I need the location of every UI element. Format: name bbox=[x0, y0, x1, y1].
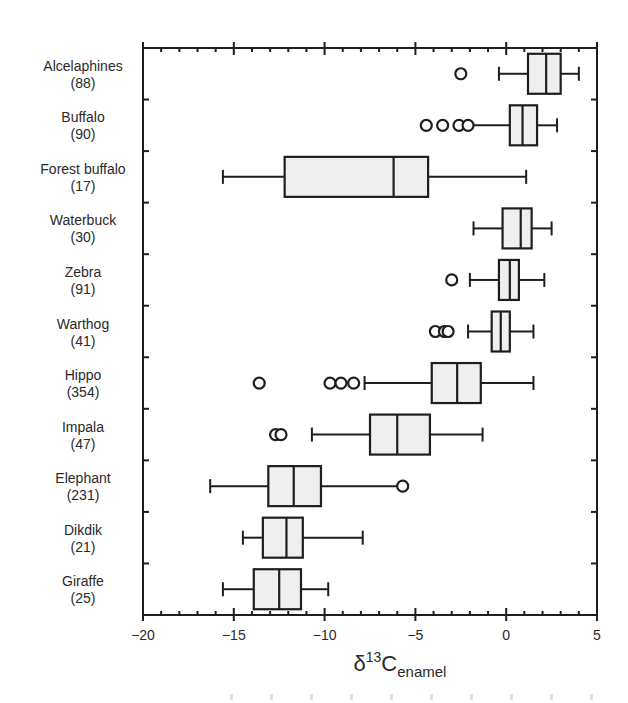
outlier-point bbox=[443, 326, 454, 337]
sample-count-label: (90) bbox=[71, 126, 96, 142]
sample-count-label: (88) bbox=[71, 75, 96, 91]
category-label: Hippo bbox=[65, 367, 102, 383]
sample-count-label: (231) bbox=[67, 487, 100, 503]
x-axis-title: δ13Cenamel bbox=[354, 649, 447, 680]
category-row-zebra: Zebra(91) bbox=[65, 260, 545, 300]
iqr-box bbox=[254, 569, 301, 609]
outlier-point bbox=[325, 378, 336, 389]
category-row-elephant: Elephant(231) bbox=[55, 466, 408, 506]
category-row-alcelaphines: Alcelaphines(88) bbox=[43, 54, 579, 94]
x-tick-label: −20 bbox=[131, 627, 155, 643]
category-row-hippo: Hippo(354) bbox=[65, 363, 534, 403]
iqr-box bbox=[370, 415, 430, 455]
category-label: Buffalo bbox=[61, 109, 105, 125]
x-tick-label: 0 bbox=[502, 627, 510, 643]
category-label: Warthog bbox=[57, 316, 109, 332]
outlier-point bbox=[421, 120, 432, 131]
outlier-point bbox=[437, 120, 448, 131]
x-tick-label: 5 bbox=[593, 627, 601, 643]
category-label: Zebra bbox=[65, 264, 102, 280]
outlier-point bbox=[397, 481, 408, 492]
category-label: Elephant bbox=[55, 470, 110, 486]
sample-count-label: (354) bbox=[67, 384, 100, 400]
category-row-giraffe: Giraffe(25) bbox=[62, 569, 328, 609]
sample-count-label: (25) bbox=[71, 590, 96, 606]
outlier-point bbox=[463, 120, 474, 131]
outlier-point bbox=[276, 429, 287, 440]
boxplot-chart: Alcelaphines(88)Buffalo(90)Forest buffal… bbox=[0, 0, 628, 703]
iqr-box bbox=[263, 518, 303, 558]
cropped-caption-fragment bbox=[230, 694, 610, 700]
sample-count-label: (91) bbox=[71, 281, 96, 297]
sample-count-label: (47) bbox=[71, 436, 96, 452]
x-tick-label: −5 bbox=[407, 627, 423, 643]
category-label: Forest buffalo bbox=[40, 161, 126, 177]
x-tick-label: −15 bbox=[222, 627, 246, 643]
category-row-warthog: Warthog(41) bbox=[57, 312, 534, 352]
iqr-box bbox=[528, 54, 561, 94]
sample-count-label: (41) bbox=[71, 333, 96, 349]
category-row-impala: Impala(47) bbox=[62, 415, 483, 455]
sample-count-label: (17) bbox=[71, 178, 96, 194]
x-axis-title-base: C bbox=[381, 651, 397, 676]
category-label: Impala bbox=[62, 419, 104, 435]
x-tick-label: −10 bbox=[313, 627, 337, 643]
iqr-box bbox=[285, 157, 428, 197]
x-axis-title-superscript: 13 bbox=[366, 649, 382, 665]
category-row-dikdik: Dikdik(21) bbox=[64, 518, 363, 558]
outlier-point bbox=[455, 68, 466, 79]
category-row-forest-buffalo: Forest buffalo(17) bbox=[40, 157, 526, 197]
category-rows: Alcelaphines(88)Buffalo(90)Forest buffal… bbox=[40, 54, 579, 609]
category-label: Alcelaphines bbox=[43, 58, 122, 74]
category-label: Giraffe bbox=[62, 573, 104, 589]
sample-count-label: (21) bbox=[71, 539, 96, 555]
outlier-point bbox=[335, 378, 346, 389]
x-axis-title-delta: δ bbox=[354, 651, 366, 676]
sample-count-label: (30) bbox=[71, 229, 96, 245]
category-row-buffalo: Buffalo(90) bbox=[61, 105, 557, 145]
category-label: Dikdik bbox=[64, 522, 103, 538]
category-row-waterbuck: Waterbuck(30) bbox=[50, 208, 552, 248]
outlier-point bbox=[348, 378, 359, 389]
x-axis-title-subscript: enamel bbox=[397, 663, 446, 680]
iqr-box bbox=[503, 208, 532, 248]
outlier-point bbox=[254, 378, 265, 389]
outlier-point bbox=[446, 274, 457, 285]
category-label: Waterbuck bbox=[50, 212, 117, 228]
